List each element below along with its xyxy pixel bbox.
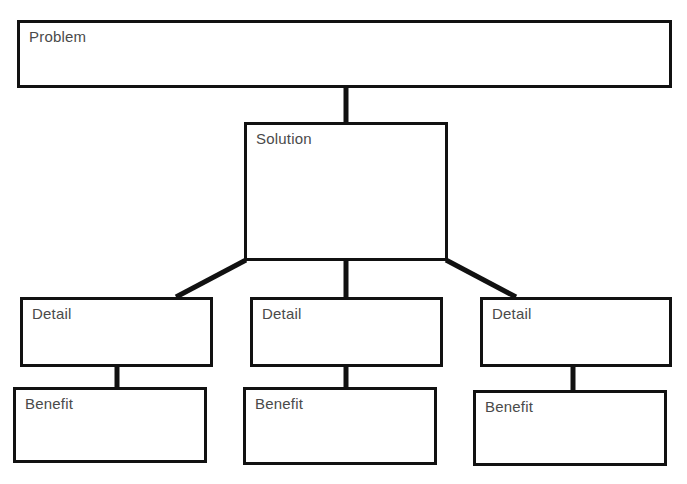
- node-label-detail-3: Detail: [492, 304, 532, 324]
- connector-solution-to-detail-1: [176, 260, 246, 297]
- node-label-solution: Solution: [256, 129, 312, 149]
- node-benefit-3[interactable]: Benefit: [473, 390, 667, 466]
- node-label-detail-2: Detail: [262, 304, 302, 324]
- node-benefit-1[interactable]: Benefit: [13, 387, 207, 463]
- clipped-header-strip: [0, 0, 687, 12]
- node-detail-3[interactable]: Detail: [480, 297, 672, 367]
- node-label-detail-1: Detail: [32, 304, 72, 324]
- node-detail-2[interactable]: Detail: [250, 297, 443, 367]
- node-solution[interactable]: Solution: [244, 122, 448, 261]
- node-benefit-2[interactable]: Benefit: [243, 387, 437, 465]
- node-problem[interactable]: Problem: [17, 20, 672, 88]
- node-label-benefit-3: Benefit: [485, 397, 533, 417]
- node-label-benefit-2: Benefit: [255, 394, 303, 414]
- connector-solution-to-detail-3: [446, 260, 516, 297]
- diagram-canvas: Problem Solution Detail Detail Detail Be…: [0, 0, 687, 484]
- node-detail-1[interactable]: Detail: [20, 297, 213, 367]
- node-label-benefit-1: Benefit: [25, 394, 73, 414]
- node-label-problem: Problem: [29, 27, 86, 47]
